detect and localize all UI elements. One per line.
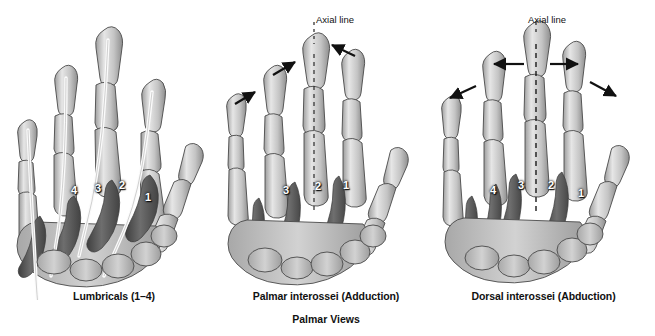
caption-palmar-interossei: Palmar interossei (Adduction) [215,290,437,302]
axial-line-label-dorsal: Axial line [497,14,597,25]
caption-lumbricals: Lumbricals (1–4) [0,290,228,302]
bone-index [563,41,588,201]
muscle-number-2: 2 [548,180,554,191]
muscle-number-1: 1 [145,192,151,203]
caption-dorsal-interossei: Dorsal interossei (Abduction) [432,290,655,302]
bone-little [442,96,464,226]
muscle-number-1: 1 [578,188,584,199]
panel-palmar-interossei: 3 2 1 [215,0,437,300]
muscle-number-4: 4 [71,185,77,196]
figure-title: Palmar Views [215,313,437,325]
bone-ring [483,51,508,206]
muscle-number-3: 3 [95,183,101,194]
anatomy-figure: 4 3 2 1 [0,0,655,336]
hand-skeleton-palmar-interossei [215,0,437,300]
adduction-arrows [235,45,355,104]
muscle-number-2: 2 [119,180,125,191]
muscle-number-4: 4 [490,185,496,196]
panel-dorsal-interossei: 4 3 2 1 [432,0,655,300]
panel-lumbricals: 4 3 2 1 [0,0,228,300]
hand-skeleton-lumbricals [0,0,228,300]
muscle-number-3: 3 [283,185,289,196]
bone-middle [524,21,551,197]
muscle-number-2: 2 [315,181,321,192]
muscle-number-1: 1 [343,180,349,191]
bone-little [227,94,249,225]
muscle-number-3: 3 [518,180,524,191]
hand-skeleton-dorsal-interossei [432,0,655,300]
axial-line-label-palmar: Axial line [285,14,385,25]
